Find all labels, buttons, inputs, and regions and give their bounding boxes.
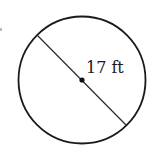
center-point [79,77,84,82]
edge-mark [0,28,2,31]
diameter-label: 17 ft [86,58,124,77]
circle-diagram: 17 ft [0,0,157,161]
